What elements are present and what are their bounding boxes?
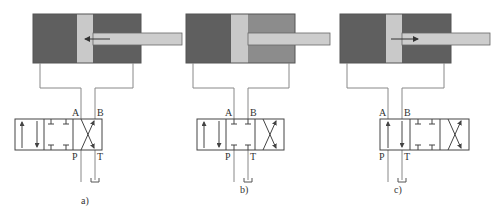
panel-c: A B P T c) — [340, 14, 490, 196]
cylinder-b — [186, 14, 330, 63]
caption-b: b) — [240, 184, 248, 196]
cylinder-left-chamber — [186, 14, 231, 63]
valve-a — [15, 119, 102, 150]
cylinder-left-chamber — [33, 14, 77, 63]
port-label-b: B — [250, 107, 257, 118]
caption-a: a) — [81, 195, 89, 207]
port-label-p: P — [379, 151, 385, 162]
port-label-t: T — [97, 151, 103, 162]
port-label-t: T — [250, 151, 256, 162]
cylinder-a — [33, 14, 182, 63]
port-label-p: P — [72, 151, 78, 162]
port-label-a: A — [379, 107, 387, 118]
valve-c — [380, 119, 469, 150]
port-label-p: P — [225, 151, 231, 162]
port-label-a: A — [72, 107, 80, 118]
piston-rod — [248, 33, 330, 45]
cylinder-left-chamber — [340, 14, 386, 63]
port-label-t: T — [404, 151, 410, 162]
panel-b: A B P T b) — [186, 14, 330, 196]
piston — [231, 14, 248, 63]
panel-a: A B P T a) — [15, 14, 182, 207]
port-label-b: B — [97, 107, 104, 118]
port-label-a: A — [225, 107, 233, 118]
port-label-b: B — [404, 107, 411, 118]
valve-b — [197, 119, 284, 150]
cylinder-c — [340, 14, 490, 63]
caption-c: c) — [394, 184, 402, 196]
